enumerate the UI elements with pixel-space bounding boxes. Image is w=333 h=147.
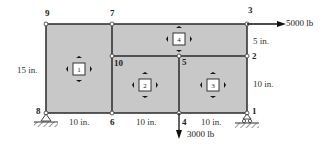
dim-left-height: 15 in. (17, 66, 38, 75)
dim-bottom-2: 10 in. (136, 118, 157, 127)
dim-bottom-3: 10 in. (201, 118, 222, 127)
horizontal-load-label: 5000 lb (286, 19, 313, 28)
node-label-7: 7 (110, 9, 115, 18)
svg-text:1: 1 (77, 66, 81, 74)
node-label-2: 2 (252, 52, 257, 61)
vertical-load-label: 3000 lb (187, 130, 214, 139)
svg-text:2: 2 (143, 82, 147, 90)
horizontal-load-arrow-icon (247, 21, 286, 27)
dim-right-bottom: 10 in. (253, 80, 274, 89)
roller-support-icon (235, 114, 259, 128)
node-label-5: 5 (182, 58, 187, 67)
node-label-4: 4 (182, 118, 187, 127)
node-label-9: 9 (45, 9, 50, 18)
svg-text:3: 3 (211, 82, 215, 90)
node-label-3: 3 (248, 6, 253, 15)
dim-right-top: 5 in. (253, 37, 269, 46)
mesh-drawing: 1 2 3 4 (0, 0, 333, 147)
node-label-1: 1 (252, 107, 257, 116)
fem-diagram: 1 2 3 4 (0, 0, 333, 147)
node-label-10: 10 (114, 59, 123, 68)
node-label-6: 6 (110, 118, 115, 127)
svg-text:4: 4 (177, 36, 181, 44)
node-label-8: 8 (36, 107, 41, 116)
dim-bottom-1: 10 in. (69, 118, 90, 127)
